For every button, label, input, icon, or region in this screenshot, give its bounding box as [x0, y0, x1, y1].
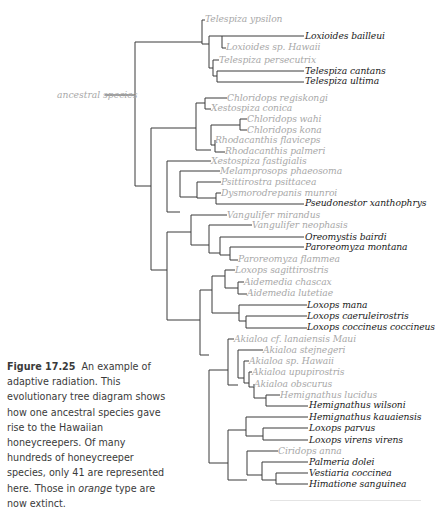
species-label: Telespiza ypsilon [205, 13, 282, 24]
tree-branch [276, 473, 308, 484]
tree-branch [228, 430, 247, 480]
tree-branch [228, 339, 238, 385]
bottom-rule [270, 500, 421, 501]
species-label: Akialoa sp. Hawaii [249, 355, 334, 366]
caption-text: An example of adaptive radiation. This e… [7, 361, 165, 494]
species-label: Loxops sagittirostris [235, 264, 328, 275]
tree-branch [209, 370, 228, 463]
tree-branch [135, 42, 202, 186]
species-label: Loxops virens virens [309, 434, 403, 445]
caption-emphasis: orange [78, 483, 112, 494]
species-label: Loxioides sp. Hawaii [226, 41, 320, 52]
tree-branch [151, 128, 196, 270]
species-label: Loxops parvus [309, 422, 375, 433]
species-label: Aidemedia chascax [244, 276, 332, 287]
tree-branch [240, 119, 247, 130]
species-label: Hemignathus wilsoni [309, 399, 405, 410]
species-label: Paroreomyza flammea [238, 253, 340, 264]
species-label: Akialoa cf. lanaiensis Maui [234, 333, 356, 344]
species-label: Melamprosops phaeosoma [220, 165, 342, 176]
species-label: Loxops caeruleirostris [307, 310, 409, 321]
species-label: Ciridops anna [278, 445, 342, 456]
species-label: Hemignathus kauaiensis [309, 411, 421, 422]
species-label: Chloridops wahi [247, 113, 321, 124]
species-label: Psittirostra psittacea [221, 176, 316, 187]
tree-branch [239, 305, 307, 328]
figure-caption: Figure 17.25 An example of adaptive radi… [7, 359, 167, 511]
species-label: Telespiza ultima [305, 75, 379, 86]
tree-branch [246, 417, 308, 440]
species-label: Himatione sanguinea [309, 478, 406, 489]
species-label: Xestospiza conica [211, 102, 292, 113]
species-label: Vestiaria coccinea [309, 467, 392, 478]
tree-branch [167, 161, 211, 212]
species-label: Palmeria dolei [309, 456, 374, 467]
species-label: Akialoa obscurus [254, 378, 332, 389]
tree-branch [180, 171, 220, 197]
species-label: Pseudonestor xanthophrys [305, 197, 426, 208]
root-label: ancestral species [57, 89, 137, 100]
species-label: Rhodacanthis flaviceps [215, 134, 320, 145]
species-label: Akialoa stejnegeri [263, 344, 345, 355]
species-label: Telespiza persecutrix [219, 54, 316, 65]
figure-label: Figure 17.25 [7, 361, 75, 372]
species-label: Loxioides bailleui [305, 30, 385, 41]
tree-branch [200, 290, 212, 355]
species-label: Vangulifer neophasis [252, 219, 348, 230]
species-label: Loxops coccineus coccineus [307, 321, 435, 332]
species-label: Loxops mana [307, 299, 367, 310]
species-label: Paroreomyza montana [305, 241, 408, 252]
tree-branch [196, 103, 211, 150]
species-label: Aidemedia lutetiae [247, 287, 333, 298]
species-label: Akialoa upupirostris [252, 366, 344, 377]
